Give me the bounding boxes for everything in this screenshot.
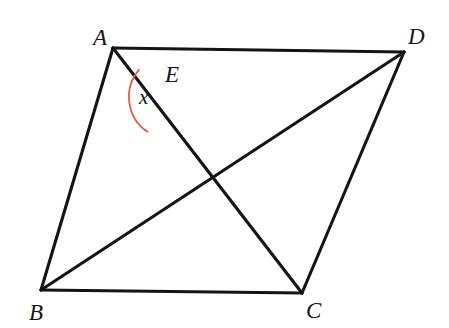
segment-BD-through-E (41, 52, 404, 290)
vertex-label-d: D (407, 24, 425, 49)
vertex-label-c: C (306, 298, 322, 323)
vertex-label-a: A (91, 25, 108, 50)
segment-AD (113, 48, 404, 52)
angle-label-x: x (138, 85, 149, 109)
vertex-label-e: E (164, 62, 179, 87)
segment-AB (41, 48, 113, 290)
segment-CD (302, 52, 404, 293)
edges-group (41, 48, 404, 293)
vertex-label-b: B (29, 300, 43, 325)
segment-BC (41, 290, 302, 293)
labels-group: A B C D E x (29, 24, 425, 325)
geometry-figure: A B C D E x (0, 0, 449, 328)
